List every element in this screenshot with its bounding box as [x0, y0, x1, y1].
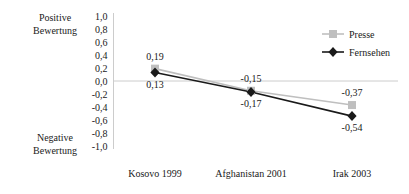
- y-tick-label: -0,6: [92, 115, 108, 126]
- value-label-presse: -0,37: [342, 87, 363, 98]
- marker-diamond-fernsehen: [347, 111, 356, 121]
- y-tick-label: -1,0: [92, 141, 108, 152]
- value-label-presse: -0,15: [241, 73, 262, 84]
- value-label-fernsehen: 0,13: [146, 79, 164, 90]
- y-tick-label: 0,8: [95, 24, 108, 35]
- value-label-presse: 0,19: [146, 51, 164, 62]
- y-tick-label: 0,6: [95, 37, 108, 48]
- value-label-fernsehen: -0,54: [342, 122, 363, 133]
- line-chart: 1,00,80,60,40,20,0-0,2-0,4-0,6-0,8-1,0Po…: [0, 0, 409, 194]
- x-category-label: Kosovo 1999: [128, 168, 182, 179]
- positive-caption-line2: Bewertung: [33, 25, 77, 36]
- legend-marker-square: [329, 30, 337, 38]
- y-tick-label: -0,2: [92, 89, 108, 100]
- x-category-label: Irak 2003: [333, 168, 372, 179]
- y-tick-label: 0,4: [95, 50, 108, 61]
- chart-container: 1,00,80,60,40,20,0-0,2-0,4-0,6-0,8-1,0Po…: [0, 0, 409, 194]
- value-label-fernsehen: -0,17: [241, 98, 262, 109]
- marker-square-presse: [348, 101, 356, 109]
- x-category-label: Afghanistan 2001: [215, 168, 286, 179]
- legend-marker-diamond: [328, 47, 337, 57]
- legend-label-presse: Presse: [349, 29, 375, 40]
- positive-caption-line1: Positive: [39, 12, 72, 23]
- negative-caption-line1: Negative: [37, 132, 74, 143]
- y-tick-label: 0,0: [95, 76, 108, 87]
- y-tick-label: -0,8: [92, 128, 108, 139]
- legend-label-fernsehen: Fernsehen: [349, 47, 390, 58]
- y-tick-label: 0,2: [95, 63, 108, 74]
- negative-caption-line2: Bewertung: [33, 145, 77, 156]
- y-tick-label: -0,4: [92, 102, 108, 113]
- y-tick-label: 1,0: [95, 11, 108, 22]
